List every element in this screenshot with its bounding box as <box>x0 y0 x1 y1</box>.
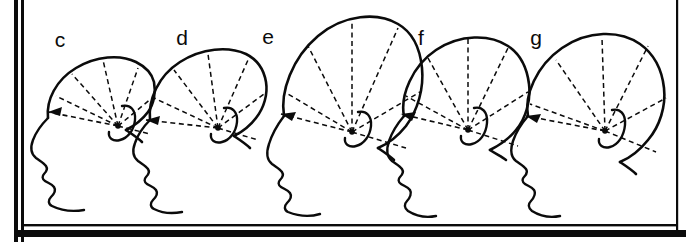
occiput-outline-g <box>620 162 636 174</box>
occiput-outline-f <box>490 150 506 160</box>
panel-label-c: c <box>55 28 66 51</box>
radial-line-e-2 <box>308 46 352 132</box>
panel-e: e <box>262 17 422 216</box>
panel-g: g <box>511 26 666 217</box>
panel-c: c <box>31 28 154 211</box>
face-profile-outline-c <box>31 118 84 211</box>
fan-vertex-point-e <box>349 129 355 135</box>
fan-vertex-point-d <box>215 125 221 131</box>
panel-label-d: d <box>176 26 188 49</box>
fan-vertex-point-g <box>602 128 608 134</box>
radial-line-e-4 <box>352 28 398 132</box>
radial-line-d-3 <box>208 54 218 128</box>
fan-vertex-point-c <box>115 123 121 129</box>
left-border-bar-inner <box>21 0 24 242</box>
right-border-rule <box>676 0 678 232</box>
skull-outline-c <box>48 57 155 130</box>
radial-measurement-fan-g <box>530 38 666 152</box>
figure-root: c d <box>0 0 686 242</box>
radial-line-d-1 <box>154 98 218 128</box>
radial-line-g-1 <box>530 104 605 131</box>
figure-svg: c d <box>0 0 686 242</box>
radial-line-g-4 <box>605 46 648 131</box>
face-profile-outline-g <box>511 116 560 217</box>
left-border-bar <box>14 0 18 242</box>
panel-label-e: e <box>262 25 274 48</box>
bottom-border-bar-inner <box>24 224 676 226</box>
panel-label-g: g <box>530 26 542 49</box>
radial-line-c-3 <box>103 60 118 126</box>
baseline-arrowhead-c <box>48 107 62 116</box>
panel-d: d <box>133 26 266 213</box>
fan-vertex-point-f <box>465 127 471 133</box>
radial-line-c-2 <box>72 74 118 126</box>
face-profile-outline-e <box>267 116 320 216</box>
radial-line-f-2 <box>428 58 468 130</box>
bottom-border-bar <box>14 230 686 237</box>
panel-label-f: f <box>418 26 424 49</box>
face-profile-outline-f <box>387 116 436 217</box>
radial-measurement-fan-e <box>288 22 420 148</box>
occiput-outline-d <box>234 136 250 148</box>
face-profile-outline-d <box>133 120 182 213</box>
ear-outline-f <box>461 108 487 145</box>
radial-line-g-3 <box>602 38 605 131</box>
skull-outline-f <box>403 37 529 150</box>
radial-line-d-2 <box>174 70 218 128</box>
radial-line-c-1 <box>56 96 118 126</box>
occiput-outline-e <box>378 148 394 160</box>
skull-outline-e <box>283 17 422 148</box>
ear-outline-e <box>345 112 371 147</box>
ear-outline-d <box>211 108 237 143</box>
radial-line-g-2 <box>556 60 605 131</box>
